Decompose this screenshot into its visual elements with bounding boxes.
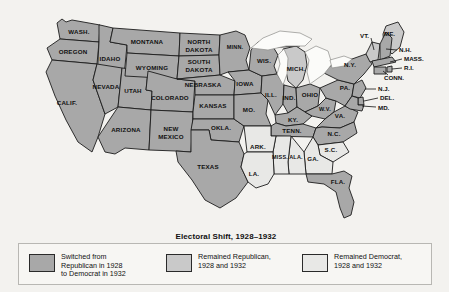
label-ARIZONA: ARIZONA — [111, 126, 141, 133]
label-COLORADO: COLORADO — [151, 94, 189, 101]
label-PA.: PA. — [340, 84, 351, 91]
label-N.H.: N.H. — [399, 46, 412, 53]
label-KY.: KY. — [288, 116, 298, 123]
us-map-svg: WASH. OREGON CALIF. IDAHO NEVADA UTAH AR… — [0, 2, 449, 234]
lake-superior — [251, 31, 312, 50]
label-MASS.: MASS. — [404, 55, 424, 62]
label-IOWA: IOWA — [236, 80, 254, 87]
label-IDAHO: IDAHO — [100, 55, 121, 62]
legend-swatch-republican — [166, 254, 192, 272]
label-VT.: VT. — [360, 32, 369, 39]
legend-swatch-democrat — [302, 254, 328, 272]
label-NEVADA: NEVADA — [93, 83, 120, 90]
label-LA.: LA. — [249, 170, 260, 177]
legend-box: Electoral Shift, 1928–1932 Switched from… — [18, 243, 432, 285]
label-S.C.: S.C. — [325, 146, 338, 153]
label-FLA.: FLA. — [331, 178, 346, 185]
label-OHIO: OHIO — [302, 91, 319, 98]
lake-huron-erie — [305, 46, 332, 84]
label-MISS.: MISS. — [272, 154, 288, 160]
label-MD.: MD. — [378, 104, 390, 111]
label-MONTANA: MONTANA — [131, 38, 164, 45]
legend-label-switched: Switched from Republican in 1928 to Demo… — [61, 253, 126, 279]
state-R.I.[interactable] — [387, 66, 392, 72]
legend-label-republican: Remained Republican, 1928 and 1932 — [198, 253, 271, 270]
leader-DEL — [364, 98, 378, 101]
label-VA.: VA. — [335, 112, 346, 119]
label-W.V.: W.V. — [319, 106, 331, 112]
legend-entry-democrat[interactable]: Remained Democrat, 1928 and 1932 — [302, 253, 402, 272]
label-R.I.: R.I. — [404, 64, 414, 71]
label-KANSAS: KANSAS — [199, 102, 226, 109]
label-MICH.: MICH. — [287, 65, 306, 72]
label-GA.: GA. — [307, 155, 319, 162]
label-OREGON: OREGON — [59, 48, 88, 55]
label-N.Y.: N.Y. — [344, 61, 356, 68]
legend-entry-republican[interactable]: Remained Republican, 1928 and 1932 — [166, 253, 271, 272]
map-area: WASH. OREGON CALIF. IDAHO NEVADA UTAH AR… — [0, 2, 449, 234]
label-NEBRASKA: NEBRASKA — [185, 81, 222, 88]
legend-title: Electoral Shift, 1928–1932 — [19, 232, 433, 241]
legend-swatch-switched — [29, 254, 55, 272]
label-WASH.: WASH. — [68, 28, 89, 35]
label-TENN.: TENN. — [282, 127, 302, 134]
label-IND.: IND. — [282, 94, 295, 101]
label-WIS.: WIS. — [257, 57, 271, 64]
state-DEL.[interactable] — [358, 97, 364, 105]
label-MO.: MO. — [243, 106, 255, 113]
state-MINN.[interactable] — [219, 31, 250, 75]
label-TEXAS: TEXAS — [197, 163, 219, 170]
label-ARK.: ARK. — [250, 143, 266, 150]
label-DEL.: DEL. — [380, 94, 394, 101]
label-ILL.: ILL. — [265, 91, 277, 98]
leader-RI — [392, 68, 402, 69]
label-ALA.: ALA. — [289, 154, 303, 160]
legend-label-democrat: Remained Democrat, 1928 and 1932 — [334, 253, 402, 270]
label-NORTH-DAKOTA: NORTHDAKOTA — [185, 38, 213, 53]
legend-entry-switched[interactable]: Switched from Republican in 1928 to Demo… — [29, 253, 126, 279]
label-SOUTH-DAKOTA: SOUTHDAKOTA — [185, 58, 213, 73]
label-N.J.: N.J. — [378, 85, 390, 92]
label-WYOMING: WYOMING — [136, 64, 168, 71]
label-UTAH: UTAH — [124, 87, 142, 94]
label-ME.: ME. — [384, 30, 395, 37]
electoral-shift-map-figure: WASH. OREGON CALIF. IDAHO NEVADA UTAH AR… — [0, 0, 449, 292]
leader-MD — [362, 106, 376, 107]
label-OKLA.: OKLA. — [211, 124, 231, 131]
label-N.C.: N.C. — [327, 130, 340, 137]
label-MINN.: MINN. — [227, 44, 244, 50]
label-CALIF.: CALIF. — [57, 99, 78, 106]
